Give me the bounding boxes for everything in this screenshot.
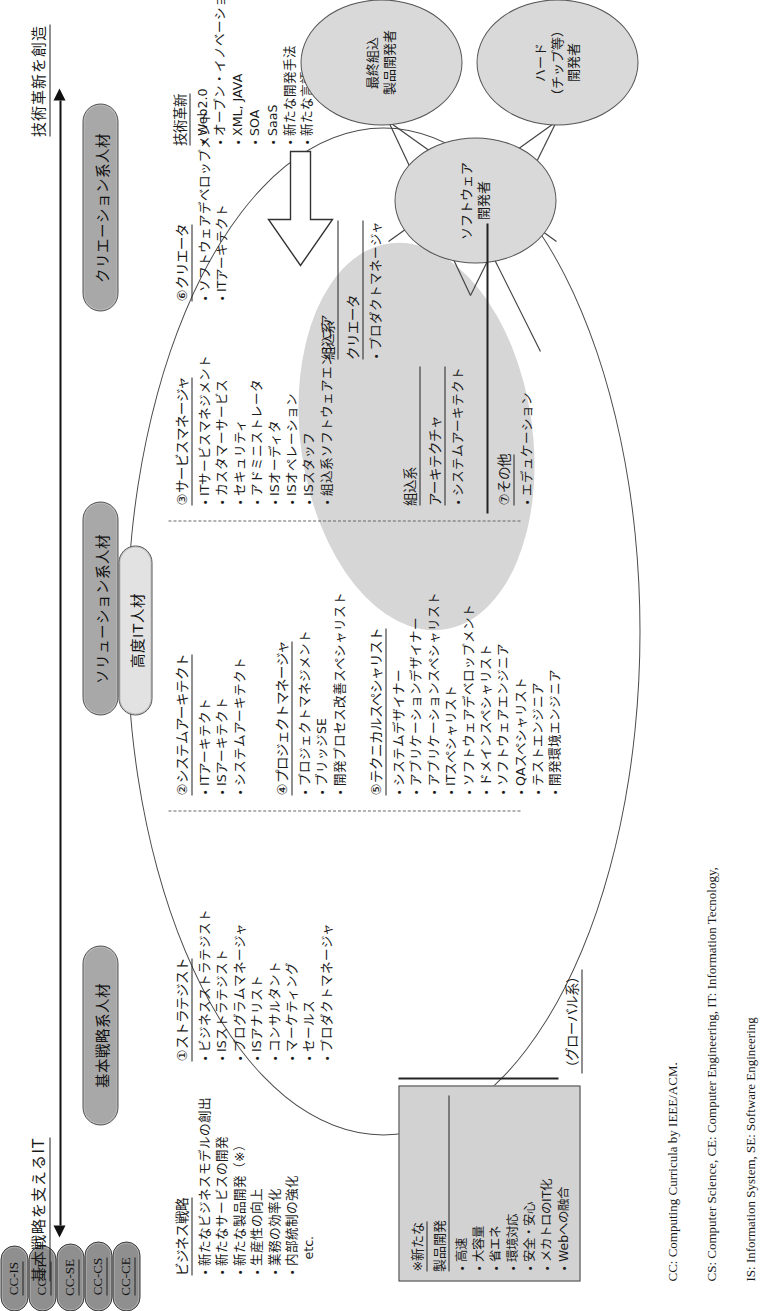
global-label: （グローバル系）	[560, 969, 582, 1073]
group-5-name: テクニカルスペシャリスト	[367, 628, 383, 783]
group-1-title: ①ストラテジスト	[170, 958, 192, 1061]
orb-final-label: 最終組込 製品開発者	[364, 30, 398, 95]
list-item: プロジェクトマネジメント	[295, 592, 312, 796]
list-item: プログラムマネージャ	[230, 909, 247, 1062]
category-creation[interactable]: クリエーション系人材	[82, 103, 118, 311]
group-2-num: ②	[173, 783, 189, 795]
list-item: XML, JAVA	[228, 0, 245, 145]
group-5-technical-specialist: ⑤テクニカルスペシャリスト システムデザイナー アプリケーションデザイナー アプ…	[364, 592, 563, 796]
list-item: プロダクトマネージャ	[317, 909, 334, 1062]
group-4-list: プロジェクトマネジメント ブリッジSE 開発プロセス改善スペシャリスト	[295, 592, 347, 796]
tag-cc-cs-label: CC-CS	[89, 1257, 107, 1295]
list-item: ITサービスマネジメント	[195, 314, 212, 506]
group-6-title: ⑥クリエータ	[170, 224, 192, 301]
list-item: 業務の効率化	[265, 1097, 282, 1276]
group-3-service-manager: ③サービスマネージャ ITサービスマネジメント カスタマーサービス セキュリティ…	[170, 314, 334, 506]
tag-cc-is[interactable]: CC-IS	[0, 1245, 28, 1311]
list-item: オープン・イノベーション	[210, 0, 227, 145]
category-solution-label: ソリューション系人材	[90, 533, 111, 683]
embedded-architect-group: 組込系 アーキテクチャ システムアーキテクト	[398, 367, 465, 506]
legend-line-3: IS: Information System, SE: Software Eng…	[740, 867, 760, 1281]
embedded-creator-subtitle: クリエータ	[341, 221, 363, 360]
tag-cc-cs[interactable]: CC-CS	[84, 1241, 112, 1311]
note-box-title: ※新たな	[406, 1221, 427, 1271]
list-item: ITスペシャリスト	[441, 592, 458, 796]
business-strategy-group: ビジネス戦略 新たなビジネスモデルの創出 新たなサービスの開発 新たな製品開発（…	[170, 1097, 317, 1276]
axis-arrow-left	[53, 1225, 65, 1237]
list-item: 省エネ	[487, 1095, 504, 1271]
axis-arrow-right	[53, 88, 65, 100]
list-item: Web2.0	[193, 0, 210, 145]
embedded-section-rule	[486, 223, 488, 513]
axis-line	[59, 100, 61, 1225]
group-5-num: ⑤	[367, 783, 383, 795]
list-item: 新たな製品開発（※）	[230, 1097, 247, 1276]
note-box: ※新たな 製品開発 高速 大容量 省エネ 環境対応 安全・安心 メカトロのIT化…	[398, 1085, 580, 1281]
group-4-name: プロジェクトマネージャ	[273, 641, 289, 783]
list-item: システムアーキテクト	[230, 654, 247, 795]
list-item: 開発プロセス改善スペシャリスト	[330, 592, 347, 796]
group-1-strategist: ①ストラテジスト ビジネスストラテジスト ISストラテジスト プログラムマネージ…	[170, 909, 334, 1062]
orb-software[interactable]: ソフトウェア 開発者	[394, 137, 556, 263]
group-6-num: ⑥	[173, 289, 189, 301]
axis-label-left: 基本戦略を支えるIT	[26, 1137, 50, 1281]
list-item: アプリケーションスペシャリスト	[424, 592, 441, 796]
list-item: ISスタッフ	[299, 314, 316, 506]
list-item: SOA	[245, 0, 262, 145]
column-divider-2	[168, 520, 520, 521]
group-3-num: ③	[173, 493, 189, 505]
embedded-architect-title: 組込系	[398, 367, 420, 506]
category-creation-label: クリエーション系人材	[90, 132, 111, 282]
list-item: ビジネスストラテジスト	[195, 909, 212, 1062]
group-1-num: ①	[173, 1049, 189, 1061]
group-1-name: ストラテジスト	[173, 958, 189, 1049]
list-item: ISストラテジスト	[212, 909, 229, 1062]
category-kodo[interactable]: 高度IT人材	[118, 545, 152, 715]
list-item: 内部統制の強化	[282, 1097, 299, 1276]
list-item: アドミニストレータ	[247, 314, 264, 506]
business-strategy-etc: etc.	[299, 1097, 316, 1260]
axis-label-right: 技術革新を創造	[26, 24, 50, 136]
list-item: システムデザイナー	[389, 592, 406, 796]
list-item: 生産性の向上	[247, 1097, 264, 1276]
list-item: QAスペシャリスト	[511, 592, 528, 796]
list-item: プロダクトマネージャ	[366, 221, 383, 360]
list-item: テストエンジニア	[528, 592, 545, 796]
list-item: ISオペレーション	[282, 314, 299, 506]
group-2-list: ITアーキテクト ISアーキテクト システムアーキテクト	[195, 654, 247, 795]
tag-cc-ce[interactable]: CC-CE	[112, 1241, 140, 1311]
embedded-architect-list: システムアーキテクト	[448, 367, 465, 506]
global-vertical-rule	[398, 1077, 558, 1079]
note-box-list: 高速 大容量 省エネ 環境対応 安全・安心 メカトロのIT化 Webへの融合	[453, 1095, 572, 1271]
orb-final[interactable]: 最終組込 製品開発者	[300, 0, 462, 125]
group-7-name: その他	[495, 454, 511, 493]
business-strategy-title: ビジネス戦略	[170, 1197, 192, 1275]
list-item: セキュリティ	[230, 314, 247, 506]
list-item: アプリケーションデザイナー	[406, 592, 423, 796]
list-item: Webへの融合	[555, 1095, 572, 1271]
legend-line-1: CC: Computing Curricula by IEEE/ACM.	[662, 867, 682, 1281]
list-item: ソフトウェアエンジニア	[493, 592, 510, 796]
list-item: エデュケーション	[517, 392, 534, 506]
group-3-name: サービスマネージャ	[173, 377, 189, 493]
list-item: ドメインスペシャリスト	[476, 592, 493, 796]
embedded-creator-list: プロダクトマネージャ	[366, 221, 383, 360]
group-4-num: ④	[273, 783, 289, 795]
embedded-creator-group: 組込系 クリエータ プロダクトマネージャ	[316, 221, 383, 360]
list-item: ISアナリスト	[247, 909, 264, 1062]
tag-cc-is-label: CC-IS	[5, 1261, 23, 1294]
note-box-subtitle: 製品開発	[428, 1095, 449, 1271]
category-solution[interactable]: ソリューション系人材	[82, 501, 118, 715]
list-item: ISアーキテクト	[212, 654, 229, 795]
tag-cc-se[interactable]: CC-SE	[56, 1243, 84, 1311]
group-5-list: システムデザイナー アプリケーションデザイナー アプリケーションスペシャリスト …	[389, 592, 563, 796]
category-kihon[interactable]: 基本戦略系人材	[82, 945, 118, 1125]
orb-hardware[interactable]: ハード （チップ等） 開発者	[476, 0, 638, 125]
category-kodo-label: 高度IT人材	[125, 592, 146, 667]
group-2-system-architect: ②システムアーキテクト ITアーキテクト ISアーキテクト システムアーキテクト	[170, 654, 247, 795]
group-4-title: ④プロジェクトマネージャ	[270, 641, 292, 795]
list-item: 大容量	[470, 1095, 487, 1271]
group-7-num: ⑦	[495, 493, 511, 505]
list-item: メカトロのIT化	[538, 1095, 555, 1271]
group-7-list: エデュケーション	[517, 392, 534, 506]
